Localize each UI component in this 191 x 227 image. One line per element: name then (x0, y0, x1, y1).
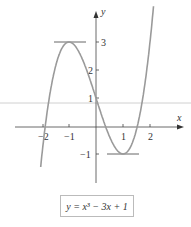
formula-text: y = x³ − 3x + 1 (66, 201, 128, 212)
x-ticks (43, 124, 150, 127)
x-tick-label: 1 (121, 131, 126, 142)
x-tick-label: 2 (148, 131, 153, 142)
y-tick-label: 1 (88, 93, 93, 104)
y-axis-arrow-icon (94, 11, 99, 18)
y-axis-label: y (100, 6, 106, 17)
x-axis-label: x (176, 112, 182, 123)
y-tick-label: −1 (80, 149, 91, 160)
x-axis-arrow-icon (177, 125, 184, 130)
x-tick-label: −1 (64, 131, 75, 142)
function-curve (41, 6, 154, 167)
function-graph: −2 −1 1 2 3 2 1 −1 x y (0, 0, 191, 227)
formula-label: y = x³ − 3x + 1 (60, 195, 134, 217)
y-tick-label: 3 (101, 37, 106, 48)
x-axis (15, 125, 184, 130)
